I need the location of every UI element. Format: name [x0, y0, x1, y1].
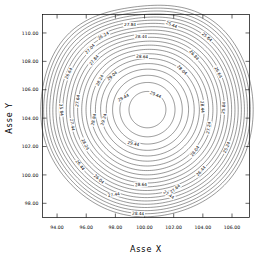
contour-label-text: 25.24: [222, 141, 232, 154]
y-tick-label: 98.00: [25, 201, 39, 206]
contour-label-text: 28.64: [135, 182, 147, 187]
y-tick-label: 108.00: [22, 59, 39, 64]
contour-label-text: 29.44: [117, 92, 130, 102]
contour-label: 28.24: [80, 137, 91, 152]
contour-label-text: 27.84: [124, 22, 136, 27]
contour-label: 26.44: [74, 158, 87, 172]
contour-label-text: 28.64: [136, 54, 149, 60]
contour-ring: [113, 75, 183, 144]
contour-label: 26.24: [96, 30, 111, 41]
contour-label: 25.84: [58, 103, 65, 117]
x-tick-label: 102.00: [165, 225, 182, 230]
contour-label-text: 29.44: [149, 90, 162, 99]
y-tick-label: 106.00: [22, 87, 39, 92]
contour-label: 29.44: [148, 90, 163, 100]
contour-label: 28.44: [131, 211, 145, 217]
contour-label-text: 25.84: [220, 101, 226, 114]
x-tick-label: 106.00: [224, 225, 241, 230]
x-tick-label: 100.00: [136, 225, 153, 230]
contour-label: 28.64: [135, 54, 149, 60]
y-axis-title: Asse Y: [5, 102, 14, 134]
contour-label-text: 28.44: [200, 101, 206, 114]
contour-label-text: 27.44: [108, 191, 121, 198]
contour-label: 27.24: [205, 120, 212, 135]
contour-ring: [101, 64, 195, 156]
contour-label: 29.44: [126, 140, 141, 148]
contour-ring: [78, 41, 217, 179]
x-tick-label: 98.00: [109, 225, 123, 230]
contour-ring: [106, 69, 188, 150]
contour-label-text: 27.44: [69, 118, 76, 131]
contour-ring: [50, 14, 245, 208]
contour-label: 28.44: [134, 34, 148, 40]
contour-label-text: 29.24: [99, 113, 108, 126]
contour-label: 25.44: [164, 20, 179, 30]
contour-label: 29.24: [99, 112, 108, 127]
contour-label: 26.84: [188, 48, 201, 62]
x-tick-label: 94.00: [50, 225, 64, 230]
contour-plot-canvas: 94.0096.0098.00100.00102.00104.00106.00 …: [0, 0, 264, 264]
contour-label: 27.44: [69, 117, 76, 132]
y-tick-label: 100.00: [22, 173, 39, 178]
contour-label: 26.64: [213, 65, 224, 80]
y-tick-label: 110.00: [22, 31, 39, 36]
contour-labels-group: 29.4429.4429.4429.2429.0428.8428.6428.64…: [58, 20, 232, 217]
y-tick-label: 104.00: [22, 116, 39, 121]
contour-ring: [120, 82, 175, 136]
contour-label: 29.04: [105, 69, 119, 82]
y-tick-label: 102.00: [22, 144, 39, 149]
x-tick-label: 104.00: [195, 225, 212, 230]
contour-label: 28.64: [134, 182, 148, 188]
contour-label: 27.44: [107, 191, 121, 198]
contour-label: 25.24: [222, 140, 232, 155]
contour-label-text: 28.44: [135, 34, 147, 39]
x-axis-title: Asse X: [130, 245, 162, 254]
contour-label: 28.04: [189, 144, 201, 158]
contour-label: 27.84: [123, 22, 137, 27]
contour-figure: 94.0096.0098.00100.00102.00104.00106.00 …: [0, 0, 264, 264]
contour-label-text: 27.64: [74, 94, 81, 107]
contour-label: 29.44: [116, 92, 131, 103]
contour-label: 27.64: [74, 94, 81, 108]
contour-label: 26.04: [92, 172, 106, 185]
contour-ring: [47, 11, 248, 211]
contour-label-text: 28.44: [132, 211, 145, 217]
contour-label: 28.44: [199, 100, 205, 114]
contour-label: 25.84: [220, 101, 227, 115]
contour-label-text: 27.24: [205, 121, 212, 134]
contour-label: 28.04: [175, 63, 189, 76]
x-tick-label: 96.00: [79, 225, 93, 230]
